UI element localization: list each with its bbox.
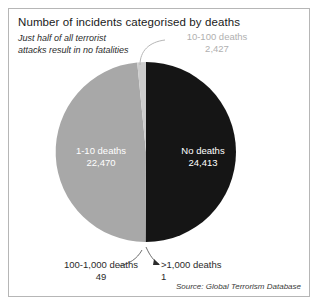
slice-label-100-1000-deaths-name: 100-1,000 deaths: [64, 259, 138, 270]
slice-label-over-1000-deaths: >1,000 deaths 1: [161, 259, 247, 283]
slice-label-100-1000-deaths-value: 49: [55, 271, 147, 283]
chart-panel: Number of incidents categorised by death…: [8, 8, 310, 297]
slice-label-over-1000-deaths-name: >1,000 deaths: [161, 259, 221, 270]
leader-line-10-100-icon: [140, 40, 165, 65]
slice-label-10-100-deaths: 10-100 deaths 2,427: [169, 31, 265, 55]
slice-label-no-deaths: No deaths 24,413: [161, 145, 245, 169]
slice-label-no-deaths-value: 24,413: [161, 157, 245, 169]
slice-label-10-100-deaths-value: 2,427: [169, 43, 265, 55]
slice-label-10-100-deaths-name: 10-100 deaths: [187, 31, 248, 42]
slice-label-no-deaths-name: No deaths: [181, 145, 224, 156]
source-attribution: Source: Global Terrorism Database: [176, 282, 301, 291]
pie-chart: No deaths 24,413 1-10 deaths 22,470 10-1…: [9, 9, 310, 297]
slice-label-1-10-deaths: 1-10 deaths 22,470: [57, 145, 145, 169]
leader-line-over-1000-icon: [146, 247, 159, 264]
slice-label-1-10-deaths-value: 22,470: [57, 157, 145, 169]
arrow-head-icon: [153, 259, 160, 265]
slice-label-1-10-deaths-name: 1-10 deaths: [76, 145, 126, 156]
slice-label-100-1000-deaths: 100-1,000 deaths 49: [55, 259, 147, 283]
